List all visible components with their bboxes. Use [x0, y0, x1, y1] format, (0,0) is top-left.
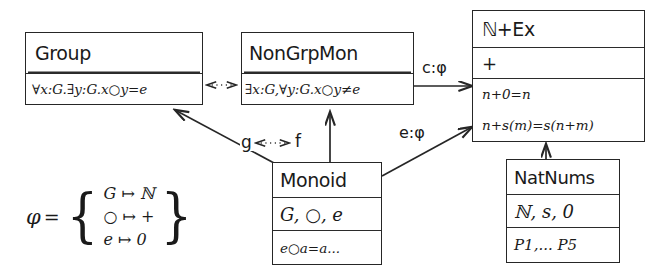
node-monoid-title: Monoid: [273, 163, 381, 197]
node-natnums-title: NatNums: [507, 160, 619, 194]
phi-definition: φ = { G ↦ ℕ ○ ↦ + e ↦ 0 }: [26, 182, 194, 252]
edge-label-f: f: [294, 133, 302, 150]
node-nex[interactable]: ℕ+Ex + n+0=n n+s(m)=s(n+m): [472, 10, 645, 142]
connector-monoid-group: [175, 110, 287, 170]
phi-mappings: G ↦ ℕ ○ ↦ + e ↦ 0: [101, 182, 158, 252]
phi-close-brace: }: [160, 196, 191, 238]
node-natnums[interactable]: NatNums ℕ, s, 0 P1,... P5: [506, 159, 620, 263]
phi-mapping-row: e ↦ 0: [104, 228, 155, 251]
node-group-title: Group: [26, 33, 202, 73]
node-group-axiom: ∀x:G.∃y:G.x○y=e: [26, 73, 202, 104]
node-monoid-signature: G, ○, e: [273, 197, 381, 230]
connector-monoid-nex: [382, 127, 472, 176]
node-nex-axiom-1: n+0=n: [473, 78, 644, 109]
node-nex-axiom-2: n+s(m)=s(n+m): [473, 109, 644, 141]
node-natnums-axiom: P1,... P5: [507, 227, 619, 262]
phi-mapping-row: G ↦ ℕ: [104, 182, 155, 205]
node-nongrpmon-title: NonGrpMon: [242, 33, 413, 73]
edge-label-g: g: [240, 134, 253, 151]
node-nex-title: ℕ+Ex: [473, 11, 644, 47]
phi-open-brace: {: [66, 196, 97, 238]
node-natnums-signature: ℕ, s, 0: [507, 194, 619, 227]
node-monoid-axiom: e○a=a...: [273, 230, 381, 264]
phi-equals: =: [44, 206, 64, 228]
node-nongrpmon[interactable]: NonGrpMon ∃x:G,∀y:G.x○y≠e: [241, 32, 414, 105]
node-nongrpmon-axiom: ∃x:G,∀y:G.x○y≠e: [242, 73, 413, 104]
diagram-canvas: Group ∀x:G.∃y:G.x○y=e NonGrpMon ∃x:G,∀y:…: [0, 0, 666, 275]
node-monoid[interactable]: Monoid G, ○, e e○a=a...: [272, 162, 382, 265]
edge-label-c-phi: c:φ: [421, 60, 448, 76]
node-nex-signature: +: [473, 47, 644, 78]
phi-mapping-row: ○ ↦ +: [104, 205, 155, 228]
phi-symbol: φ: [26, 205, 44, 229]
edge-label-e-phi: e:φ: [398, 125, 426, 141]
node-group[interactable]: Group ∀x:G.∃y:G.x○y=e: [25, 32, 203, 105]
